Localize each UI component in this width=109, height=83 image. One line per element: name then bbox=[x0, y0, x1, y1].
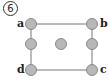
nodes bbox=[26, 19, 98, 76]
node-right-mid bbox=[87, 39, 98, 50]
label-c: c bbox=[100, 64, 107, 75]
label-d: d bbox=[17, 64, 25, 75]
node-c bbox=[87, 65, 98, 76]
node-d bbox=[26, 65, 37, 76]
label-a: a bbox=[17, 18, 24, 29]
node-a bbox=[26, 19, 37, 30]
node-center bbox=[56, 39, 67, 50]
label-b: b bbox=[100, 18, 108, 29]
node-left-mid bbox=[26, 39, 37, 50]
node-b bbox=[87, 19, 98, 30]
